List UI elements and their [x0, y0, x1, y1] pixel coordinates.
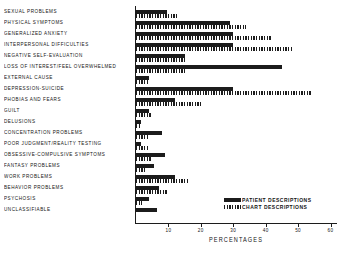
bar-patient: [136, 153, 165, 157]
bar-patient: [136, 65, 282, 69]
x-tick: [168, 223, 169, 227]
bar-patient: [136, 197, 149, 201]
bar-patient: [136, 21, 230, 25]
bar-chart: [136, 69, 185, 73]
bar-chart: [136, 80, 149, 84]
bar-group: [136, 98, 337, 109]
bar-patient: [136, 43, 233, 47]
bar-chart: [136, 91, 311, 95]
bar-patient: [136, 87, 233, 91]
category-label: PHYSICAL SYMPTOMS: [4, 20, 63, 25]
bar-patient: [136, 120, 141, 124]
bar-group: [136, 164, 337, 175]
category-label: INTERPERSONAL DIFFICULTIES: [4, 42, 89, 47]
bar-chart: [136, 179, 188, 183]
category-label: EXTERNAL CAUSE: [4, 75, 53, 80]
x-tick-label: 10: [165, 228, 171, 234]
bar-chart: [136, 47, 292, 51]
bar-group: [136, 43, 337, 54]
category-label: OBSESSIVE-COMPULSIVE SYMPTOMS: [4, 152, 105, 157]
legend-item-chart-descriptions: CHART DESCRIPTIONS: [224, 197, 312, 204]
category-label: NEGATIVE SELF-EVALUATION: [4, 53, 83, 58]
bar-patient: [136, 186, 159, 190]
x-tick: [233, 223, 234, 227]
bar-group: [136, 65, 337, 76]
x-tick: [331, 223, 332, 227]
bar-chart: [136, 157, 152, 161]
bar-patient: [136, 142, 141, 146]
x-tick-label: 50: [295, 228, 301, 234]
bar-group: [136, 142, 337, 153]
bar-patient: [136, 54, 185, 58]
category-label: FANTASY PROBLEMS: [4, 163, 60, 168]
bar-chart: [136, 146, 149, 150]
bar-group: [136, 87, 337, 98]
bar-patient: [136, 76, 149, 80]
bar-group: [136, 32, 337, 43]
bar-chart: SEXUAL PROBLEMSPHYSICAL SYMPTOMSGENERALI…: [0, 0, 339, 253]
bar-group: [136, 21, 337, 32]
x-tick: [266, 223, 267, 227]
category-label: DELUSIONS: [4, 119, 36, 124]
y-axis-line: [135, 6, 136, 223]
category-axis-labels: SEXUAL PROBLEMSPHYSICAL SYMPTOMSGENERALI…: [0, 0, 132, 215]
bar-group: [136, 109, 337, 120]
x-axis-title: PERCENTAGES: [209, 236, 263, 243]
bar-chart: [136, 124, 141, 128]
bar-chart: [136, 14, 178, 18]
legend-item-patient-descriptions: PATIENT DESCRIPTIONS: [224, 190, 312, 197]
category-label: POOR JUDGMENT/REALITY TESTING: [4, 141, 102, 146]
category-label: LOSS OF INTEREST/FEEL OVERWHELMED: [4, 64, 116, 69]
bar-patient: [136, 131, 162, 135]
bar-patient: [136, 208, 157, 212]
bar-group: [136, 131, 337, 142]
bar-group: [136, 10, 337, 21]
bar-chart: [136, 36, 272, 40]
category-label: DEPRESSION-SUICIDE: [4, 86, 64, 91]
category-label: UNCLASSIFIABLE: [4, 207, 51, 212]
plot-area: [136, 8, 337, 220]
legend-swatch-hatch-icon: [224, 205, 241, 209]
bar-patient: [136, 109, 149, 113]
x-tick-label: 40: [263, 228, 269, 234]
bar-chart: [136, 190, 168, 194]
legend-label-chart-descriptions: CHART DESCRIPTIONS: [242, 203, 307, 210]
bar-group: [136, 175, 337, 186]
chart-legend: PATIENT DESCRIPTIONS CHART DESCRIPTIONS: [224, 190, 312, 204]
bar-chart: [136, 201, 142, 205]
bar-patient: [136, 32, 233, 36]
bar-patient: [136, 10, 167, 14]
bar-chart: [136, 168, 146, 172]
category-label: GENERALIZED ANXIETY: [4, 31, 68, 36]
bar-group: [136, 76, 337, 87]
x-tick: [201, 223, 202, 227]
x-axis-line: [135, 223, 337, 224]
bar-patient: [136, 175, 175, 179]
bar-chart: [136, 113, 152, 117]
bar-group: [136, 153, 337, 164]
category-label: WORK PROBLEMS: [4, 174, 52, 179]
category-label: CONCENTRATION PROBLEMS: [4, 130, 83, 135]
bar-chart: [136, 102, 201, 106]
bar-chart: [136, 25, 246, 29]
category-label: PHOBIAS AND FEARS: [4, 97, 61, 102]
x-tick: [298, 223, 299, 227]
x-tick-label: 60: [328, 228, 334, 234]
category-label: GUILT: [4, 108, 20, 113]
x-tick-label: 30: [230, 228, 236, 234]
bar-patient: [136, 164, 154, 168]
bar-patient: [136, 98, 175, 102]
bar-chart: [136, 135, 149, 139]
x-tick-label: 20: [198, 228, 204, 234]
category-label: SEXUAL PROBLEMS: [4, 9, 57, 14]
bar-group: [136, 120, 337, 131]
bar-chart: [136, 58, 185, 62]
category-label: PSYCHOSIS: [4, 196, 36, 201]
bar-group: [136, 54, 337, 65]
category-label: BEHAVIOR PROBLEMS: [4, 185, 64, 190]
